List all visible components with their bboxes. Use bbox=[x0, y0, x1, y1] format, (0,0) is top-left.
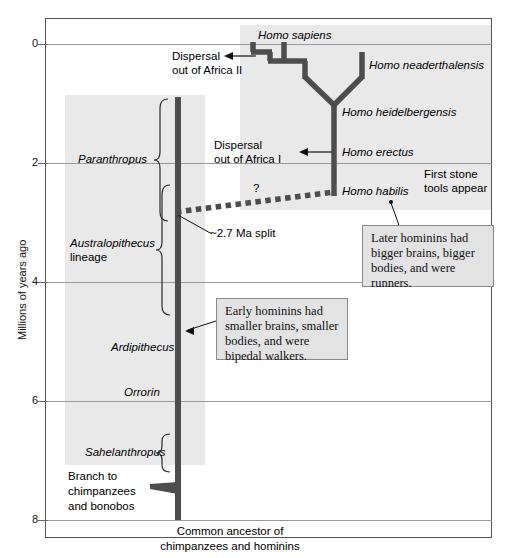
stone-tools-label-line2: tools appear bbox=[424, 182, 487, 194]
taxon-label-homo-sapiens: Homo sapiens bbox=[258, 29, 332, 41]
taxon-label-paranthropus: Paranthropus bbox=[78, 153, 147, 165]
taxon-label-ardipithecus: Ardipithecus bbox=[111, 341, 174, 353]
dispersal-2-label-line2: out of Africa II bbox=[172, 64, 242, 76]
hominin-phylogeny-figure: 0 2 4 6 8 Millions of years ago bbox=[0, 0, 512, 558]
taxon-label-homo-heidelbergensis: Homo heidelbergensis bbox=[342, 106, 456, 118]
early-callout-arrow-head bbox=[185, 327, 194, 335]
taxon-label-australopithecus-line2: lineage bbox=[70, 251, 107, 263]
bracket-paranthropus bbox=[154, 99, 168, 221]
chimp-branch-label-line1: Branch to bbox=[68, 470, 117, 482]
taxon-label-australopithecus: Australopithecus bbox=[70, 237, 155, 249]
taxon-label-sahelanthropus: Sahelanthropus bbox=[85, 446, 166, 458]
chimp-branch-label-line2: chimpanzees bbox=[68, 485, 136, 497]
taxon-label-homo-habilis: Homo habilis bbox=[342, 185, 408, 197]
callout-early-hominins: Early hominins had smaller brains, small… bbox=[216, 298, 348, 360]
dispersal-2-label-line1: Dispersal bbox=[172, 50, 220, 62]
common-ancestor-label-line1: Common ancestor of bbox=[120, 525, 340, 537]
question-mark-label: ? bbox=[253, 182, 259, 194]
chimp-branch bbox=[150, 482, 178, 494]
taxon-label-homo-erectus: Homo erectus bbox=[342, 146, 414, 158]
dispersal-1-arrow-head bbox=[299, 148, 308, 156]
split-leader-line bbox=[178, 215, 212, 234]
taxon-label-orrorin: Orrorin bbox=[124, 386, 160, 398]
bracket-australopithecus bbox=[156, 185, 170, 315]
split-label: ~2.7 Ma split bbox=[210, 227, 276, 239]
dispersal-1-label-line1: Dispersal bbox=[214, 139, 262, 151]
later-callout-anchor-dot bbox=[389, 200, 393, 204]
chimp-branch-label-line3: and bonobos bbox=[68, 500, 135, 512]
stone-tools-label-line1: First stone bbox=[424, 168, 478, 180]
taxon-label-homo-neaderthalensis: Homo neaderthalensis bbox=[369, 59, 484, 71]
common-ancestor-label-line2: chimpanzees and hominins bbox=[120, 540, 340, 552]
callout-later-hominins: Later hominins had bigger brains, bigger… bbox=[362, 225, 494, 287]
homo-y-left bbox=[305, 77, 334, 105]
dispersal-1-label-line2: out of Africa I bbox=[214, 153, 281, 165]
dispersal-2-arrow-head bbox=[224, 52, 233, 60]
split-dotted-line bbox=[176, 192, 334, 212]
homo-y-right bbox=[334, 77, 362, 105]
